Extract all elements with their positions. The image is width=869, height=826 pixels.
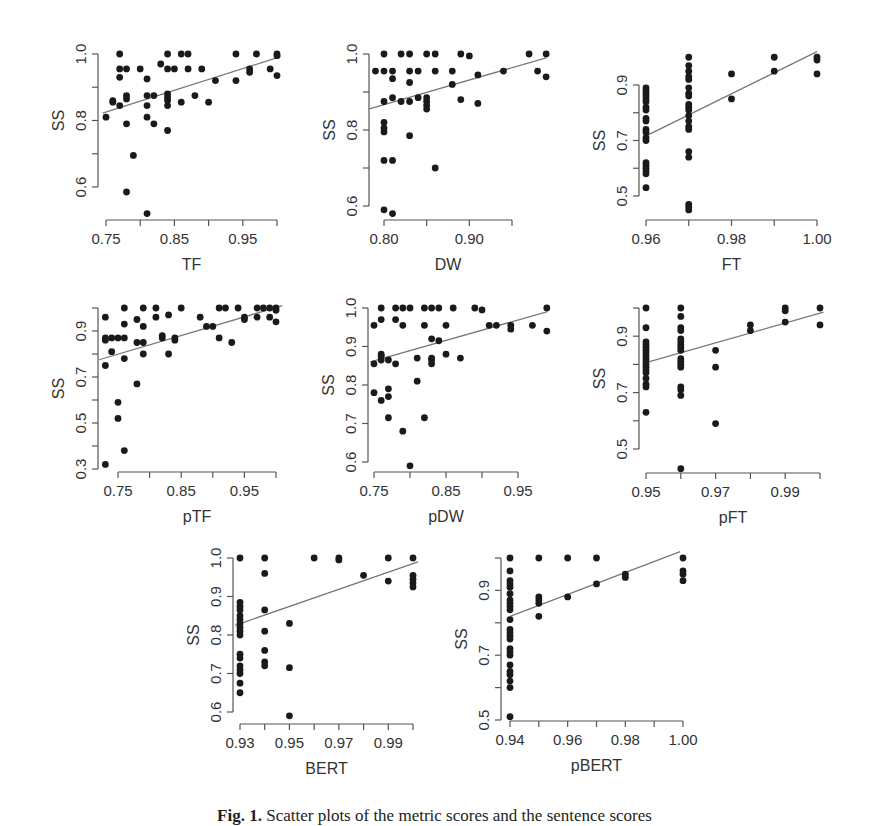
data-point — [507, 684, 514, 691]
x-axis: 0.940.960.981.00pBERT — [495, 721, 697, 774]
data-point — [500, 68, 507, 75]
x-tick-label: 0.94 — [495, 731, 524, 748]
data-point — [414, 378, 421, 385]
data-point — [771, 68, 778, 75]
x-axis-label: pDW — [428, 508, 464, 525]
data-point — [414, 355, 421, 362]
data-point — [254, 314, 261, 321]
data-point — [261, 628, 268, 635]
x-tick-label: 0.96 — [631, 230, 660, 247]
y-axis: 0.50.70.9SS — [453, 558, 501, 730]
data-point — [273, 307, 280, 314]
data-point — [385, 385, 392, 392]
y-tick-label: 0.6 — [343, 196, 360, 217]
data-point — [164, 51, 171, 58]
data-point — [593, 555, 600, 562]
data-point — [241, 316, 248, 323]
data-point — [108, 348, 115, 355]
data-point — [507, 606, 514, 613]
x-axis-label: BERT — [305, 760, 348, 777]
data-points — [237, 555, 417, 720]
data-point — [526, 51, 533, 58]
data-point — [450, 305, 457, 312]
data-point — [198, 66, 205, 73]
data-point — [643, 324, 650, 331]
data-point — [443, 351, 450, 358]
data-point — [205, 99, 212, 106]
data-point — [261, 647, 268, 654]
data-point — [428, 335, 435, 342]
data-point — [814, 57, 821, 64]
data-point — [643, 184, 650, 191]
y-axis-label: SS — [50, 378, 67, 399]
data-point — [406, 98, 413, 105]
data-point — [685, 54, 692, 61]
data-point — [466, 53, 473, 60]
data-point — [178, 305, 185, 312]
data-point — [677, 305, 684, 312]
data-point — [535, 555, 542, 562]
data-point — [410, 583, 417, 590]
data-point — [159, 335, 166, 342]
y-axis-label: SS — [185, 624, 202, 645]
data-point — [178, 99, 185, 106]
data-point — [814, 71, 821, 78]
scatter-panel-DW: 0.60.81.0SS0.800.90DW — [321, 44, 550, 273]
y-axis-label: SS — [591, 130, 608, 151]
data-point — [685, 126, 692, 133]
y-tick-label: 0.6 — [207, 702, 224, 723]
data-point — [543, 73, 550, 80]
data-point — [372, 68, 379, 75]
data-point — [543, 328, 550, 335]
data-point — [385, 357, 392, 364]
scatter-panel-pDW: 0.60.70.80.91.0SS0.750.850.95pDW — [320, 298, 550, 525]
data-point — [421, 322, 428, 329]
data-point — [593, 581, 600, 588]
x-tick-label: 0.80 — [369, 230, 398, 247]
data-point — [237, 632, 244, 639]
data-point — [121, 305, 128, 312]
data-point — [140, 339, 147, 346]
data-point — [507, 326, 514, 333]
data-point — [261, 555, 268, 562]
scatter-panel-BERT: 0.60.70.80.91.0SS0.930.950.970.99BERT — [185, 548, 418, 777]
data-point — [534, 68, 541, 75]
data-point — [507, 652, 514, 659]
y-axis: 0.50.70.9SS — [591, 75, 639, 207]
data-point — [406, 132, 413, 139]
x-tick-label: 0.90 — [455, 230, 484, 247]
data-point — [237, 655, 244, 662]
data-point — [406, 51, 413, 58]
data-point — [392, 316, 399, 323]
x-axis-label: pFT — [719, 509, 748, 526]
data-point — [144, 210, 151, 217]
data-point — [543, 51, 550, 58]
data-point — [237, 555, 244, 562]
data-point — [407, 305, 414, 312]
data-point — [415, 68, 422, 75]
y-axis: 0.60.81.0SS — [50, 44, 98, 198]
y-tick-label: 0.9 — [613, 75, 630, 96]
caption-text: Scatter plots of the metric scores and t… — [266, 806, 652, 825]
data-point — [381, 51, 388, 58]
data-point — [479, 307, 486, 314]
data-point — [535, 613, 542, 620]
data-point — [260, 305, 267, 312]
y-tick-label: 0.7 — [72, 367, 89, 388]
data-point — [171, 66, 178, 73]
data-point — [108, 335, 115, 342]
data-point — [286, 620, 293, 627]
data-point — [102, 337, 109, 344]
x-axis: 0.750.850.95TF — [91, 220, 277, 273]
data-point — [817, 322, 824, 329]
data-point — [185, 51, 192, 58]
data-point — [266, 305, 273, 312]
x-tick-label: 0.97 — [324, 734, 353, 751]
data-point — [685, 76, 692, 83]
data-point — [685, 206, 692, 213]
data-point — [677, 327, 684, 334]
y-tick-label: 0.5 — [475, 710, 492, 731]
x-tick-label: 0.99 — [771, 483, 800, 500]
x-axis: 0.950.970.99pFT — [631, 473, 820, 526]
x-tick-label: 0.98 — [717, 230, 746, 247]
